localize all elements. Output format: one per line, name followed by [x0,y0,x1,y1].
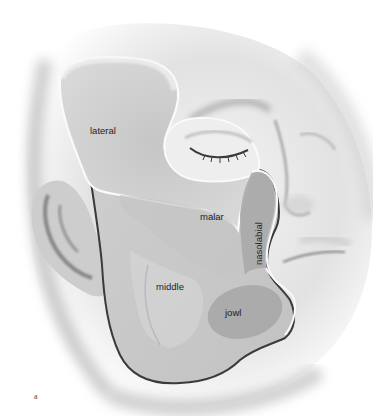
panel-label: a [34,392,38,401]
label-middle: middle [156,281,184,292]
facial-fat-compartments-diagram: lateral malar nasolabial middle jowl a [0,0,373,417]
label-lateral: lateral [90,125,116,136]
label-nasolabial: nasolabial [253,222,264,265]
label-malar: malar [200,211,224,222]
face-illustration [0,0,373,417]
label-jowl: jowl [225,307,241,318]
